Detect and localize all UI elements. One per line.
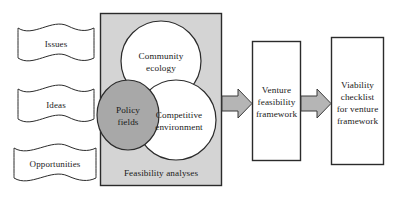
- circle-policy-fields: [97, 80, 159, 150]
- arrow-venture-to-viability-icon: [301, 89, 331, 118]
- arrow-panel-to-venture-icon: [222, 89, 252, 118]
- diagram-canvas: [0, 0, 410, 201]
- input-banner-ideas: [18, 85, 94, 122]
- diagram-root: Issues Ideas Opportunities Community eco…: [0, 0, 410, 201]
- stage-box-venture-feasibility-framework: [253, 42, 301, 161]
- input-banner-issues: [18, 24, 94, 61]
- input-banner-opportunities: [14, 144, 96, 181]
- stage-box-viability-checklist: [332, 38, 384, 165]
